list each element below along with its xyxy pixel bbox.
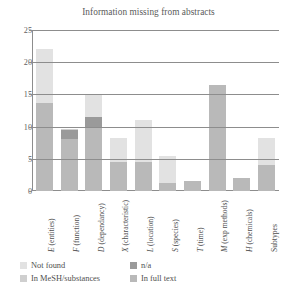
gridline — [32, 159, 279, 160]
x-tick-label: M (exp methods) — [220, 200, 229, 252]
y-tick-label: 10 — [4, 122, 32, 131]
bar-10[interactable] — [258, 138, 275, 191]
x-tick-label: E (entities) — [47, 218, 56, 252]
bar-segment — [258, 165, 275, 191]
x-tick-label: X (characteristic) — [121, 200, 130, 252]
gridline — [32, 127, 279, 128]
bar-segment — [135, 162, 152, 191]
x-tick-label: Subtypes — [270, 224, 279, 252]
y-tick-label: 20 — [4, 58, 32, 67]
legend-label: Not found — [31, 261, 65, 270]
plot-area — [32, 30, 279, 191]
bar-9[interactable] — [233, 178, 250, 191]
bar-5[interactable] — [135, 120, 152, 191]
bar-segment — [258, 138, 275, 166]
x-tick-label: S (species) — [171, 219, 180, 252]
legend-item[interactable]: n/a — [130, 261, 151, 270]
legend-item[interactable]: Not found — [20, 261, 65, 270]
x-tick-label: D (dependancy) — [97, 203, 106, 252]
y-axis: 0510152025 — [0, 30, 32, 191]
bar-1[interactable] — [36, 49, 53, 191]
y-tick-label: 25 — [4, 26, 32, 35]
bar-segment — [61, 139, 78, 191]
bar-segment — [159, 183, 176, 191]
bar-segment — [110, 162, 127, 191]
legend-label: In MeSH/substances — [31, 274, 100, 283]
legend-item[interactable]: In MeSH/substances — [20, 274, 100, 283]
legend-swatch — [130, 275, 137, 282]
bar-7[interactable] — [184, 181, 201, 191]
bar-segment — [233, 178, 250, 191]
legend-swatch — [130, 262, 137, 269]
legend-label: In full text — [141, 274, 176, 283]
gridline — [32, 30, 279, 31]
x-tick-label: L (location) — [146, 216, 155, 252]
gridline — [32, 94, 279, 95]
bar-8[interactable] — [209, 85, 226, 191]
legend-swatch — [20, 275, 27, 282]
bar-segment — [61, 129, 78, 130]
gridline — [32, 62, 279, 63]
x-tick-label: T (time) — [196, 227, 205, 252]
y-tick-label: 15 — [4, 90, 32, 99]
legend-label: n/a — [141, 261, 151, 270]
legend-item[interactable]: In full text — [130, 274, 176, 283]
bar-segment — [61, 130, 78, 140]
bar-segment — [85, 117, 102, 127]
y-tick-label: 0 — [4, 187, 32, 196]
bar-segment — [184, 181, 201, 191]
bar-4[interactable] — [110, 138, 127, 191]
bar-6[interactable] — [159, 156, 176, 191]
x-tick-label: H (chemicals) — [245, 209, 254, 252]
legend-swatch — [20, 262, 27, 269]
bar-segment — [85, 94, 102, 117]
x-axis-labels: E (entities)F (function)D (dependancy)X … — [32, 192, 279, 254]
bars-layer — [32, 30, 279, 191]
x-tick-label: F (function) — [72, 215, 81, 252]
y-tick-label: 5 — [4, 154, 32, 163]
bar-3[interactable] — [85, 94, 102, 191]
bar-segment — [209, 85, 226, 191]
chart-legend: Not foundn/aIn MeSH/substancesIn full te… — [20, 261, 280, 293]
chart-title: Information missing from abstracts — [0, 7, 297, 17]
chart-container: Information missing from abstracts 05101… — [0, 0, 297, 299]
bar-segment — [36, 103, 53, 191]
